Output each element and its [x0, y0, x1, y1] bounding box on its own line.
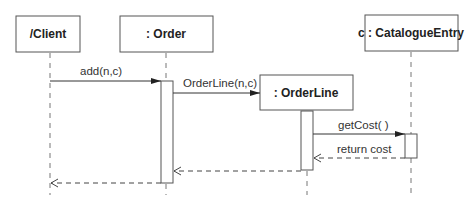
message-label: add(n,c) — [80, 65, 122, 77]
activation-orderline — [301, 111, 313, 170]
participant-label: : OrderLine — [274, 86, 339, 100]
participant-label: c : CatalogueEntry — [358, 26, 464, 40]
message-create-orderline: OrderLine(n,c) — [173, 77, 260, 93]
message-label: getCost( ) — [338, 119, 389, 131]
participant-catalogue: c : CatalogueEntry — [358, 15, 464, 51]
message-label: return cost — [337, 143, 392, 155]
message-label: OrderLine(n,c) — [183, 77, 257, 89]
message-return-orderline — [174, 167, 301, 175]
participant-label: : Order — [146, 27, 186, 41]
participant-client: /Client — [16, 16, 80, 52]
message-return-cost: return cost — [314, 143, 405, 162]
sequence-diagram: /Client : Order : OrderLine c : Catalogu… — [0, 0, 473, 203]
message-return-order — [51, 179, 161, 187]
message-getcost: getCost( ) — [313, 119, 405, 134]
activation-order — [161, 81, 173, 183]
participant-label: /Client — [30, 27, 67, 41]
participant-order: : Order — [120, 16, 213, 52]
participant-orderline: : OrderLine — [260, 75, 353, 110]
message-add: add(n,c) — [50, 65, 161, 81]
activation-catalogue — [405, 134, 417, 158]
